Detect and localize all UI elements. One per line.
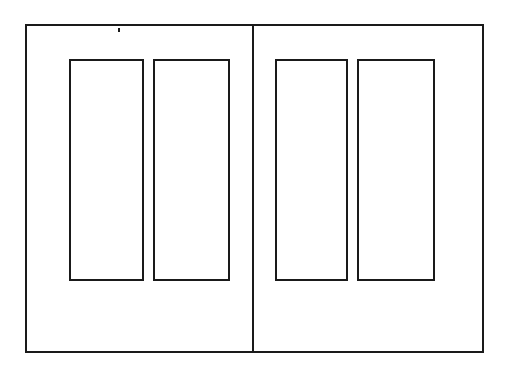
line-drawing-svg [0, 0, 512, 369]
drawing-canvas: Two-leaf panelled door elevation with fo… [0, 0, 512, 369]
drawing-background [0, 0, 512, 369]
tick-mark [118, 28, 120, 32]
